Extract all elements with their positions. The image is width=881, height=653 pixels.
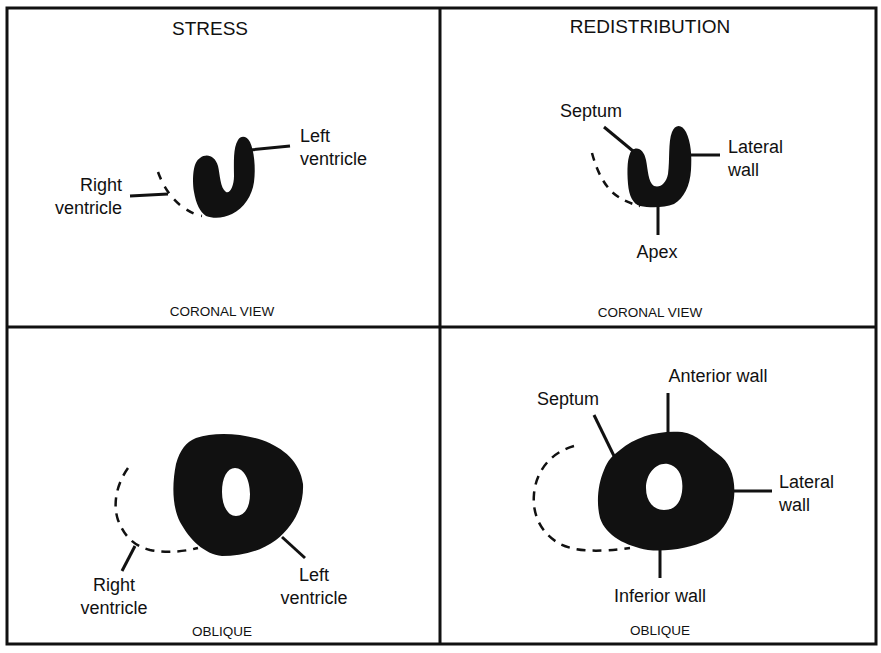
lateral-wall-label: Lateral (728, 137, 783, 157)
panel-stress-coronal: STRESS Left ventricle Right ventricle CO… (55, 18, 367, 319)
left-ventricle-label: ventricle (280, 588, 347, 608)
left-ventricle-leader (250, 146, 290, 150)
right-ventricle-leader (130, 194, 168, 196)
left-ventricle-shape (627, 126, 691, 207)
lateral-wall-label: wall (727, 160, 759, 180)
lateral-wall-label: Lateral (779, 472, 834, 492)
view-label: OBLIQUE (192, 624, 252, 639)
cardiac-scan-diagram: STRESS Left ventricle Right ventricle CO… (0, 0, 881, 653)
view-label: OBLIQUE (630, 623, 690, 638)
right-ventricle-label: ventricle (80, 598, 147, 618)
view-label: CORONAL VIEW (170, 304, 275, 319)
panel-title: STRESS (172, 18, 248, 39)
right-ventricle-leader (122, 546, 135, 571)
lateral-wall-label: wall (778, 495, 810, 515)
panel-stress-oblique: Right ventricle Left ventricle OBLIQUE (80, 434, 347, 639)
right-ventricle-label: Right (93, 575, 135, 595)
anterior-wall-label: Anterior wall (668, 366, 767, 386)
panel-title: REDISTRIBUTION (570, 16, 730, 37)
septum-label: Septum (560, 101, 622, 121)
left-ventricle-leader (282, 537, 305, 558)
left-ventricle-label: Left (300, 126, 330, 146)
view-label: CORONAL VIEW (598, 305, 703, 320)
panel-redistribution-coronal: REDISTRIBUTION Septum Lateral wall Apex … (560, 16, 783, 320)
left-ventricle-ring (598, 432, 734, 551)
septum-label: Septum (537, 389, 599, 409)
panel-redistribution-oblique: Septum Anterior wall Lateral wall Inferi… (534, 366, 834, 638)
apex-label: Apex (636, 242, 677, 262)
right-ventricle-label: Right (80, 175, 122, 195)
left-ventricle-label: ventricle (300, 149, 367, 169)
left-ventricle-label: Left (299, 565, 329, 585)
septum-leader (594, 415, 614, 456)
left-ventricle-shape (193, 137, 255, 218)
septum-leader (604, 127, 633, 151)
right-ventricle-label: ventricle (55, 198, 122, 218)
inferior-wall-label: Inferior wall (614, 586, 706, 606)
